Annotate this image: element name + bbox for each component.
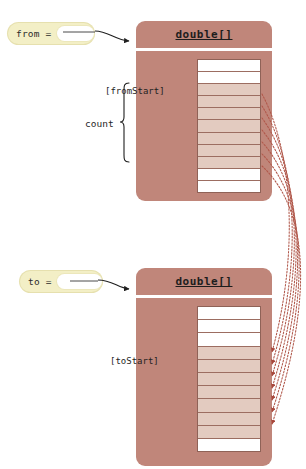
index-label-from-start: [fromStart] xyxy=(105,86,165,96)
array-to-type-label: double[] xyxy=(176,275,233,288)
variable-pill-to-label: to = xyxy=(20,276,57,287)
array-cell[interactable] xyxy=(198,181,260,192)
array-cell[interactable] xyxy=(198,169,260,181)
variable-pill-from[interactable]: from = xyxy=(8,23,94,44)
diagram-canvas: from = double[] [fromStart] count xyxy=(0,0,306,469)
array-from-type-label: double[] xyxy=(176,28,233,41)
array-cell[interactable] xyxy=(198,333,260,346)
array-from-body xyxy=(136,51,272,201)
array-cell[interactable] xyxy=(198,84,260,96)
array-cell[interactable] xyxy=(198,360,260,373)
array-to-cells xyxy=(198,307,260,451)
array-cell[interactable] xyxy=(198,72,260,84)
array-object-to: double[] xyxy=(136,268,272,466)
variable-pill-from-label: from = xyxy=(8,28,57,39)
array-from-header: double[] xyxy=(136,21,272,48)
array-cell[interactable] xyxy=(198,386,260,399)
array-cell[interactable] xyxy=(198,60,260,72)
array-from-cells xyxy=(198,60,260,192)
array-cell[interactable] xyxy=(198,120,260,132)
array-cell[interactable] xyxy=(198,320,260,333)
count-label: count xyxy=(85,118,114,129)
array-cell[interactable] xyxy=(198,133,260,145)
variable-pill-to-slot xyxy=(57,274,102,289)
array-cell[interactable] xyxy=(198,96,260,108)
array-cell[interactable] xyxy=(198,157,260,169)
variable-pill-to[interactable]: to = xyxy=(20,271,102,292)
array-cell[interactable] xyxy=(198,307,260,320)
array-cell[interactable] xyxy=(198,108,260,120)
array-object-from: double[] xyxy=(136,21,272,201)
array-cell[interactable] xyxy=(198,426,260,439)
array-cell[interactable] xyxy=(198,413,260,426)
array-cell[interactable] xyxy=(198,347,260,360)
array-cell[interactable] xyxy=(198,145,260,157)
array-to-header: double[] xyxy=(136,268,272,295)
array-cell[interactable] xyxy=(198,399,260,412)
array-to-body xyxy=(136,298,272,466)
array-cell[interactable] xyxy=(198,439,260,451)
array-cell[interactable] xyxy=(198,373,260,386)
index-label-to-start: [toStart] xyxy=(110,356,159,366)
variable-pill-from-slot xyxy=(57,26,94,41)
